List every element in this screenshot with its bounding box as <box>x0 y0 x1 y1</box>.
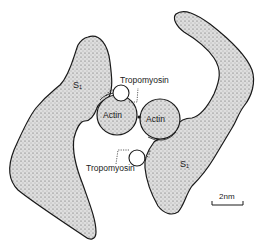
s1-left-shape <box>10 36 112 239</box>
tropomyosin-top-label: Tropomyosin <box>120 75 169 85</box>
actin-right-label: Actin <box>146 114 165 124</box>
leader-bottom <box>116 150 129 164</box>
scale-bar <box>212 201 243 205</box>
tropomyosin-top-circle <box>113 85 129 101</box>
center-axis-dot <box>137 115 140 118</box>
s1-right-label: S₁ <box>180 159 189 169</box>
actomyosin-diagram: S₁ S₁ Actin Actin Tropomyosin Tropomyosi… <box>0 0 256 251</box>
actin-left-label: Actin <box>103 110 122 120</box>
scale-label: 2nm <box>219 192 235 201</box>
tropomyosin-bottom-label: Tropomyosin <box>86 163 135 173</box>
s1-left-label: S₁ <box>73 80 82 90</box>
